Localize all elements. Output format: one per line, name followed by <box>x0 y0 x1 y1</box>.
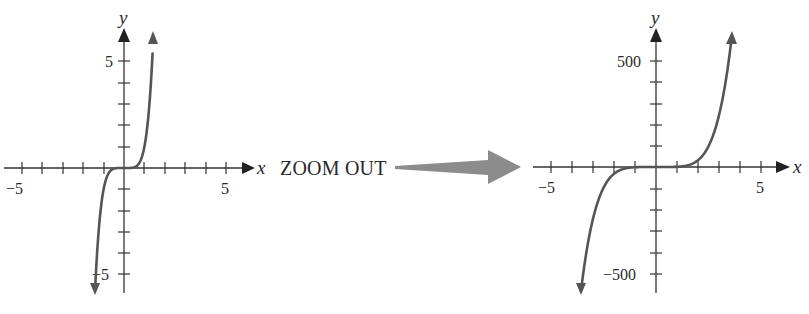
right-y-axis-arrow-icon <box>650 28 662 42</box>
right-x-tick-label-neg5: −5 <box>538 179 555 196</box>
left-x-tick-label-5: 5 <box>221 180 229 197</box>
zoom-out-transition: ZOOM OUT <box>280 150 521 184</box>
left-y-axis-arrow-icon <box>118 28 130 42</box>
right-y-axis-label: y <box>649 7 660 28</box>
left-x-axis-arrow-icon <box>242 162 255 174</box>
left-curve-bottom-arrow-icon <box>90 283 100 295</box>
left-curve-top-arrow-icon <box>148 31 158 44</box>
right-graph: x y −5 5 500 −500 <box>533 7 802 295</box>
right-curve-bottom-arrow-icon <box>576 283 586 295</box>
left-graph: x y −5 5 5 −5 <box>4 7 266 295</box>
zoom-out-label: ZOOM OUT <box>280 157 387 179</box>
right-curve-top-arrow-icon <box>726 31 737 44</box>
zoom-out-figure: x y −5 5 5 −5 ZOOM OUT <box>0 0 809 314</box>
left-y-tick-label-5: 5 <box>105 53 113 70</box>
right-x-axis-arrow-icon <box>776 161 790 173</box>
left-x-tick-label-neg5: −5 <box>6 180 23 197</box>
right-x-axis-label: x <box>792 156 802 177</box>
right-y-tick-label-neg500: −500 <box>603 266 636 283</box>
right-x-tick-label-5: 5 <box>756 179 764 196</box>
left-x-axis-label: x <box>256 157 266 178</box>
right-y-tick-label-500: 500 <box>617 53 641 70</box>
left-y-axis-label: y <box>117 7 128 28</box>
zoom-out-arrow-icon <box>395 150 521 184</box>
